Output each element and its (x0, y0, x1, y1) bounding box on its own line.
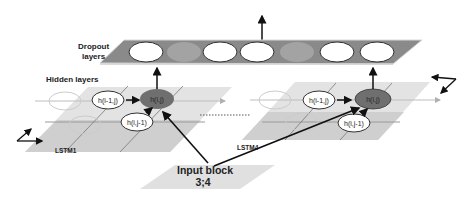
svg-text:h(i-1,j): h(i-1,j) (98, 97, 118, 105)
dropout-unit-6 (320, 42, 354, 62)
left-node-prev-row: h(i-1,j) (92, 91, 124, 109)
input-block: Input block 3;4 (140, 164, 275, 189)
left-node-prev-col: h(i,j-1) (121, 113, 153, 131)
dropout-unit-2-dropped (167, 42, 201, 62)
right-node-current: h(i,j) (355, 89, 391, 109)
lstm-dropout-diagram: Dropout layers Hidden layers h(i-1,j) h(… (0, 0, 470, 204)
svg-text:h(i,j-1): h(i,j-1) (344, 120, 364, 128)
dropout-unit-1 (129, 42, 163, 62)
dropout-unit-5-dropped (280, 42, 314, 62)
right-node-prev-row: h(i-1,j) (303, 91, 335, 109)
dropout-unit-3 (203, 42, 237, 62)
svg-text:Input block: Input block (177, 164, 233, 176)
hidden-grid-lstm4 (242, 82, 440, 140)
hidden-layers-label: Hidden layers (46, 75, 99, 84)
svg-text:h(i,j): h(i,j) (150, 96, 164, 104)
left-node-current: h(i,j) (140, 89, 174, 109)
dropout-layer (100, 40, 422, 64)
lstm1-label: LSTM1 (55, 147, 77, 154)
svg-text:h(i-1,j): h(i-1,j) (309, 97, 329, 105)
right-node-prev-col: h(i,j-1) (338, 114, 370, 132)
dropout-unit-7 (360, 42, 394, 62)
svg-text:h(i,j): h(i,j) (366, 96, 380, 104)
dropout-unit-4 (240, 42, 274, 62)
svg-text:h(i,j-1): h(i,j-1) (127, 119, 147, 127)
axes-icon-right (432, 77, 456, 93)
svg-text:3;4: 3;4 (195, 176, 210, 188)
